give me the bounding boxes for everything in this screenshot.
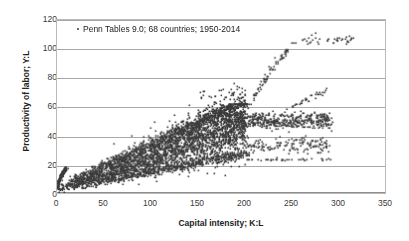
- x-tick-label-100: 100: [135, 199, 165, 208]
- x-tick-label-200: 200: [229, 199, 259, 208]
- scatter-chart: Productivity of labor; Y:L 120 100 80 60…: [0, 0, 409, 241]
- y-tick-label-0: 0: [29, 190, 57, 199]
- legend-label: Penn Tables 9.0; 68 countries; 1950-2014: [83, 24, 240, 34]
- legend: Penn Tables 9.0; 68 countries; 1950-2014: [77, 24, 240, 34]
- x-tick-label-250: 250: [276, 199, 306, 208]
- x-tick-label-350: 350: [370, 199, 400, 208]
- y-tick-label-40: 40: [29, 132, 57, 141]
- y-tick-label-20: 20: [29, 161, 57, 170]
- y-tick-label-80: 80: [29, 73, 57, 82]
- plot-area: Penn Tables 9.0; 68 countries; 1950-2014: [56, 19, 386, 194]
- y-tick-label-60: 60: [29, 102, 57, 111]
- y-tick-label-100: 100: [29, 44, 57, 53]
- x-tick-label-0: 0: [41, 199, 71, 208]
- scatter-points-layer: [57, 20, 385, 193]
- x-tick-label-50: 50: [88, 199, 118, 208]
- x-axis-title: Capital intensity; K:L: [56, 218, 386, 228]
- y-tick-label-120: 120: [29, 15, 57, 24]
- x-tick-label-150: 150: [182, 199, 212, 208]
- legend-marker-icon: [77, 28, 79, 30]
- x-tick-label-300: 300: [323, 199, 353, 208]
